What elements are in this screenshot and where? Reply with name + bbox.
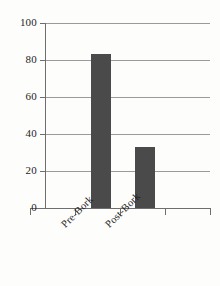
y-tick-label-0: 0 xyxy=(7,202,37,213)
x-tick-0 xyxy=(30,209,31,215)
gridline-80 xyxy=(45,60,210,61)
gridline-60 xyxy=(45,97,210,98)
y-tick-label-60: 60 xyxy=(7,91,37,102)
y-tick-80 xyxy=(40,60,45,61)
gridline-100 xyxy=(45,23,210,24)
y-tick-40 xyxy=(40,134,45,135)
y-tick-60 xyxy=(40,97,45,98)
y-axis-tick-labels: 100 80 60 40 20 0 xyxy=(0,0,37,286)
gridline-40 xyxy=(45,134,210,135)
x-tick-4 xyxy=(210,209,211,215)
y-tick-label-100: 100 xyxy=(7,17,37,28)
y-tick-label-20: 20 xyxy=(7,165,37,176)
y-tick-label-80: 80 xyxy=(7,54,37,65)
y-tick-100 xyxy=(40,23,45,24)
bar-pre-bork xyxy=(91,54,111,208)
bar-chart: 100 80 60 40 20 0 Pre-Bork Post-Bork xyxy=(0,0,220,286)
y-tick-0 xyxy=(40,208,45,209)
gridline-20 xyxy=(45,171,210,172)
y-tick-20 xyxy=(40,171,45,172)
y-tick-label-40: 40 xyxy=(7,128,37,139)
plot-area xyxy=(45,23,210,208)
y-axis-line xyxy=(45,23,46,209)
x-tick-3 xyxy=(165,209,166,215)
